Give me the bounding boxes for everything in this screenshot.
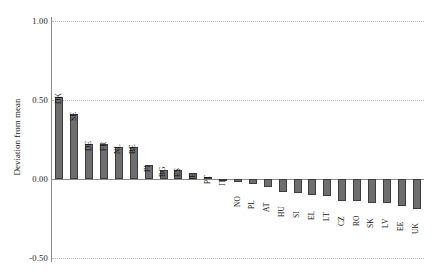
bar-label-NL: NL [113, 144, 122, 154]
y-axis-ticks: 1.000.500.00-0.50 [0, 0, 48, 273]
bar-SE [70, 114, 78, 179]
bar-label-EE: EE [396, 221, 405, 230]
bar-PL [249, 179, 257, 184]
bar-label-IE: IE [188, 172, 197, 179]
bar-NO [234, 179, 242, 182]
bar-label-DE: DE [84, 141, 93, 151]
bar-label-ES: ES [173, 168, 182, 177]
y-tick-label: 0.50 [32, 95, 48, 105]
bar-label-AT: AT [262, 203, 271, 212]
y-tick-label: -0.50 [29, 253, 48, 263]
bar-label-HU: HU [277, 206, 286, 217]
bar-HU [279, 179, 287, 192]
y-tick-label: 1.00 [32, 16, 48, 26]
bar-label-BE: BE [128, 145, 137, 155]
bar-CZ [338, 179, 346, 201]
bar-label-FR: FR [99, 142, 108, 151]
bar-label-PL: PL [247, 200, 256, 209]
bar-label-SI: SI [292, 211, 301, 218]
bar-RO [353, 179, 361, 201]
bar-EL [308, 179, 316, 195]
bar-label-RO: RO [352, 215, 361, 226]
bar-SI [294, 179, 302, 193]
y-tick-label: 0.00 [32, 174, 48, 184]
bar-label-BG: BG [158, 166, 167, 177]
bar-label-DK: DK [54, 93, 63, 104]
bar-label-LT: LT [322, 213, 331, 222]
bar-label-FI: FI [143, 165, 152, 172]
chart-container: Deviation from mean 1.000.500.00-0.50 DK… [0, 0, 436, 273]
bar-EE [398, 179, 406, 206]
bar-label-PT: PT [203, 175, 212, 184]
bar-label-CZ: CZ [337, 216, 346, 226]
bar-label-NO: NO [233, 196, 242, 207]
bar-LV [383, 179, 391, 203]
bar-DK [55, 97, 63, 179]
bar-label-UK: UK [411, 223, 420, 234]
bar-series: DKSEDEFRNLBEFIBGESIEPTITNOPLATHUSIELLTCZ… [52, 0, 424, 273]
bar-LT [323, 179, 331, 196]
bar-label-IT: IT [218, 179, 227, 186]
bar-UK [413, 179, 421, 209]
bar-label-EL: EL [307, 210, 316, 219]
bar-SK [368, 179, 376, 203]
bar-label-LV: LV [381, 218, 390, 228]
bar-label-SK: SK [366, 218, 375, 228]
bar-AT [264, 179, 272, 187]
bar-label-SE: SE [69, 112, 78, 121]
